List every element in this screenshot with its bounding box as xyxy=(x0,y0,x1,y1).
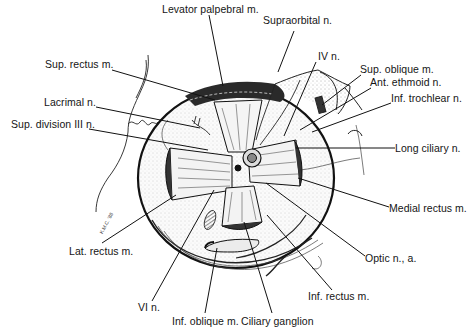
label-inf-trochlear-n: Inf. trochlear n. xyxy=(391,92,462,104)
label-supraorbital-n: Supraorbital n. xyxy=(263,14,332,26)
label-long-ciliary-n: Long ciliary n. xyxy=(395,142,461,154)
orbit-anatomy-figure: K.M.C. '88 Levator palpebral m. Supraorb… xyxy=(0,0,471,335)
label-ant-ethmoid-n: Ant. ethmoid n. xyxy=(370,76,441,88)
label-sup-rectus: Sup. rectus m. xyxy=(45,58,113,70)
label-sup-oblique: Sup. oblique m. xyxy=(360,63,434,75)
label-lat-rectus: Lat. rectus m. xyxy=(69,245,133,257)
label-iv-n: IV n. xyxy=(318,50,340,62)
label-inf-rectus: Inf. rectus m. xyxy=(308,290,369,302)
label-levator-palpebral: Levator palpebral m. xyxy=(162,3,259,15)
orbit-illustration xyxy=(0,0,471,335)
label-lacrimal-n: Lacrimal n. xyxy=(44,96,96,108)
label-medial-rectus: Medial rectus m. xyxy=(389,202,467,214)
label-vi-n: VI n. xyxy=(138,301,160,313)
label-optic-n-a: Optic n., a. xyxy=(365,252,416,264)
label-inf-oblique: Inf. oblique m. xyxy=(172,315,239,327)
label-sup-division-iii-n: Sup. division III n. xyxy=(11,118,95,130)
label-ciliary-ganglion: Ciliary ganglion xyxy=(241,315,314,327)
